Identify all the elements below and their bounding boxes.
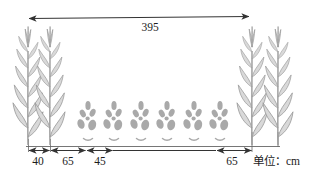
corn-plant-right-inner — [237, 27, 267, 146]
unit-label: 单位：cm — [253, 154, 300, 167]
seedling-4 — [155, 101, 176, 140]
dim-40-label: 40 — [32, 155, 44, 167]
seedling-5 — [182, 101, 203, 140]
corn-plant-left-inner — [35, 27, 65, 146]
dim-65-left-label: 65 — [62, 155, 74, 167]
planting-layout-diagram: 395 40 65 45 65 单位：cm — [0, 0, 310, 175]
dim-total-label: 395 — [141, 21, 159, 33]
seedling-2 — [102, 101, 123, 140]
dim-total-line — [29, 17, 249, 19]
corn-plant-left-outer — [13, 27, 43, 146]
dim-65-right-label: 65 — [226, 155, 238, 167]
dim-45-label: 45 — [94, 155, 106, 167]
diagram-svg: 395 40 65 45 65 单位：cm — [0, 0, 310, 175]
seedling-3 — [129, 101, 150, 140]
corn-plant-right-outer — [263, 27, 293, 146]
seedling-1 — [76, 101, 97, 140]
seedling-6 — [208, 101, 229, 140]
